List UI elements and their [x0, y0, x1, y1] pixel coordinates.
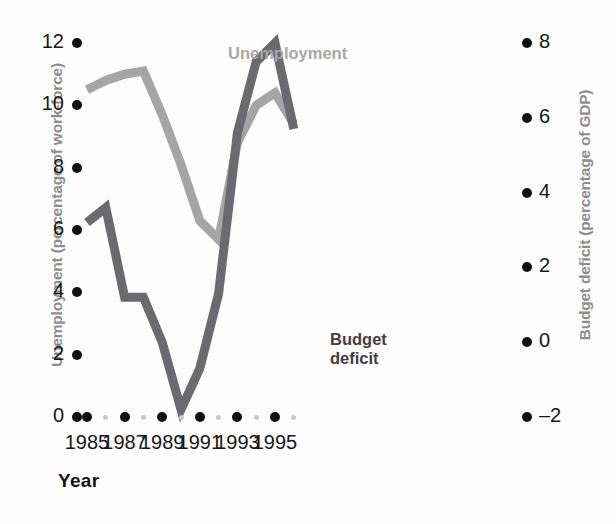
y-tick-label-left: 8 [24, 155, 64, 178]
x-tick-dot-major [270, 412, 280, 422]
y-tick-label-right: 6 [539, 105, 579, 128]
x-tick-dot-minor [291, 415, 296, 420]
y-tick-label-left: 12 [24, 30, 64, 53]
y-tick-label-right: 0 [539, 329, 579, 352]
y-tick-dot-right [522, 113, 532, 123]
x-tick-label: 1995 [240, 431, 310, 454]
y-tick-dot-right [522, 412, 532, 422]
x-tick-dot-minor [216, 415, 221, 420]
y-tick-label-left: 6 [24, 217, 64, 240]
y-tick-label-left: 2 [24, 342, 64, 365]
x-axis-title: Year [58, 470, 99, 492]
y-tick-label-left: 0 [24, 404, 64, 427]
y-tick-dot-left [72, 163, 82, 173]
y-tick-dot-left [72, 38, 82, 48]
series-label-unemployment: Unemployment [228, 44, 347, 63]
chart-container: Unemployment (percentage of work-force) … [0, 0, 616, 524]
y-tick-label-left: 10 [24, 92, 64, 115]
y-tick-dot-left [72, 412, 82, 422]
y-tick-dot-left [72, 225, 82, 235]
x-tick-dot-minor [103, 415, 108, 420]
y-tick-label-right: 4 [539, 180, 579, 203]
series-label-budget-deficit: Budget deficit [330, 330, 387, 368]
y-tick-dot-left [72, 350, 82, 360]
y-tick-label-right: –2 [539, 404, 579, 427]
x-tick-dot-major [120, 412, 130, 422]
x-tick-dot-minor [141, 415, 146, 420]
y-tick-label-left: 4 [24, 279, 64, 302]
series-line-unemployment [87, 71, 294, 239]
y-tick-dot-right [522, 188, 532, 198]
x-tick-dot-minor [254, 415, 259, 420]
y-tick-dot-right [522, 38, 532, 48]
x-tick-dot-major [195, 412, 205, 422]
y-axis-title-right: Budget deficit (percentage of GDP) [576, 55, 594, 375]
x-tick-dot-major [82, 412, 92, 422]
y-tick-label-right: 8 [539, 30, 579, 53]
x-tick-dot-minor [179, 415, 184, 420]
y-tick-label-right: 2 [539, 254, 579, 277]
